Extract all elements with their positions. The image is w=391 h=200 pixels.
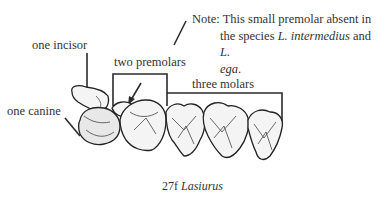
- caption-genus: Lasiurus: [181, 179, 223, 193]
- canine-tooth: [79, 108, 121, 145]
- premolar-note: Note: This small premolar absent in the …: [192, 11, 382, 77]
- incisor-label: one incisor: [32, 38, 87, 52]
- note-pointer-line: [174, 21, 186, 45]
- note-line-1: Note: This small premolar absent in: [192, 12, 371, 26]
- canine-leader-line: [65, 118, 80, 136]
- note-line-3: ega.: [192, 61, 382, 78]
- canine-label: one canine: [7, 104, 61, 118]
- large-premolar-tooth: [120, 100, 166, 151]
- molar-1-tooth: [166, 104, 205, 156]
- molars-label: three molars: [192, 77, 254, 91]
- figure-caption: 27f Lasiurus: [162, 179, 223, 194]
- premolar-arrow-shaft: [131, 83, 141, 100]
- species-intermedius: L. intermedius: [278, 29, 350, 43]
- note-line-2: the species L. intermedius and L.: [192, 28, 382, 61]
- molar-3-tooth: [248, 110, 282, 159]
- caption-number: 27f: [162, 179, 178, 193]
- species-ega-part2: ega: [220, 62, 238, 76]
- premolars-label: two premolars: [114, 55, 186, 69]
- species-ega-part1: L.: [220, 45, 230, 59]
